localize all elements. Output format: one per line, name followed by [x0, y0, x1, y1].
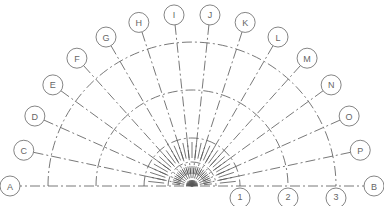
grid-bubble-D: D [25, 106, 45, 126]
grid-bubble-L: L [268, 27, 288, 47]
arc-label-2: 2 [285, 192, 290, 202]
grid-bubbles: ACDEFGHIJKLMNOPB123 [0, 5, 384, 206]
grid-bubble-P: P [350, 140, 370, 160]
grid-label-P: P [357, 146, 363, 156]
grid-label-J: J [208, 10, 213, 20]
grid-bubble-B: B [364, 176, 384, 196]
arc-bubble-3: 3 [326, 188, 346, 206]
grid-bubble-N: N [321, 75, 341, 95]
grid-label-H: H [136, 18, 143, 28]
arc-bubble-1: 1 [230, 188, 250, 206]
grid-bubble-K: K [235, 12, 255, 32]
grid-bubble-J: J [200, 5, 220, 25]
grid-bubble-O: O [339, 106, 359, 126]
grid-label-L: L [275, 33, 280, 43]
grid-label-N: N [328, 80, 335, 90]
grid-label-K: K [242, 18, 248, 28]
arc-label-1: 1 [237, 192, 242, 202]
radial-grid-diagram: ACDEFGHIJKLMNOPB123 [0, 0, 384, 206]
arc-bubble-2: 2 [278, 188, 298, 206]
grid-bubble-E: E [43, 75, 63, 95]
grid-bubble-M: M [297, 48, 317, 68]
arc-label-3: 3 [333, 192, 338, 202]
grid-label-D: D [32, 112, 39, 122]
grid-label-M: M [303, 54, 311, 64]
grid-label-C: C [21, 146, 28, 156]
grid-bubble-C: C [14, 140, 34, 160]
grid-bubble-F: F [67, 48, 87, 68]
grid-label-A: A [7, 182, 13, 192]
grid-label-O: O [346, 112, 353, 122]
grid-label-G: G [102, 33, 109, 43]
grid-label-I: I [173, 10, 176, 20]
grid-bubble-A: A [0, 176, 20, 196]
grid-label-E: E [50, 80, 56, 90]
grid-bubble-H: H [129, 12, 149, 32]
grid-label-F: F [74, 54, 80, 64]
grid-bubble-I: I [164, 5, 184, 25]
grid-bubble-G: G [96, 27, 116, 47]
grid-label-B: B [371, 182, 377, 192]
